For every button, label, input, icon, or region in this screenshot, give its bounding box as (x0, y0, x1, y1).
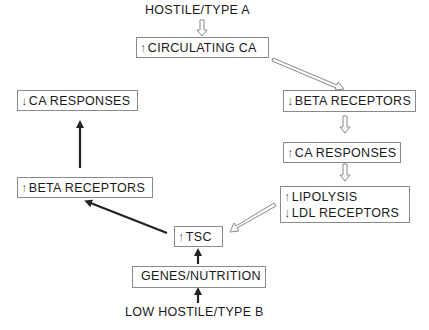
arrow-up-icon: ↑ (285, 189, 290, 204)
edge-ca-up-to-lipolysis (340, 164, 350, 181)
node-text: BETA RECEPTORS (29, 181, 145, 195)
edge-circulating-to-beta-down (272, 58, 344, 90)
node-text: CA RESPONSES (29, 94, 131, 108)
arrow-down-icon: ↓ (22, 93, 27, 108)
arrow-up-icon: ↑ (141, 40, 146, 55)
node-text: CA RESPONSES (295, 146, 397, 160)
arrow-down-icon: ↓ (285, 205, 290, 220)
arrow-down-icon: ↓ (288, 93, 293, 108)
arrow-up-icon: ↑ (179, 229, 184, 244)
node-beta-receptors-down: ↓BETA RECEPTORS (283, 90, 416, 112)
arrow-up-icon: ↑ (22, 180, 27, 195)
node-ca-responses-down: ↓CA RESPONSES (17, 90, 138, 111)
node-line-ldl-receptors: ↓LDL RECEPTORS (284, 205, 405, 221)
arrow-up-icon: ↑ (288, 145, 293, 160)
node-text: LOW HOSTILE/TYPE B (125, 305, 264, 319)
edge-lipolysis-to-tsc (230, 203, 276, 232)
node-text: LDL RECEPTORS (292, 206, 399, 220)
node-genes-nutrition: GENES/NUTRITION (132, 266, 266, 288)
node-text: BETA RECEPTORS (295, 94, 411, 108)
edge-beta-down-to-ca-up (340, 116, 350, 133)
node-text: CIRCULATING CA (148, 41, 257, 55)
node-lipolysis-ldl-receptors: ↑LIPOLYSIS ↓LDL RECEPTORS (280, 186, 410, 223)
node-ca-responses-up: ↑CA RESPONSES (283, 142, 401, 163)
node-low-hostile-type-b: LOW HOSTILE/TYPE B (125, 305, 264, 319)
node-beta-receptors-up: ↑BETA RECEPTORS (17, 177, 153, 198)
node-tsc: ↑TSC (174, 226, 223, 247)
edge-hostile-to-circulating (197, 20, 207, 36)
node-text: HOSTILE/TYPE A (145, 3, 250, 17)
node-text: GENES/NUTRITION (141, 269, 261, 283)
edge-tsc-to-beta-up (88, 202, 167, 233)
node-circulating-ca: ↑CIRCULATING CA (136, 37, 269, 58)
node-text: TSC (186, 230, 212, 244)
node-hostile-type-a: HOSTILE/TYPE A (145, 3, 250, 17)
node-text: LIPOLYSIS (292, 190, 358, 204)
node-line-lipolysis: ↑LIPOLYSIS (284, 189, 405, 205)
